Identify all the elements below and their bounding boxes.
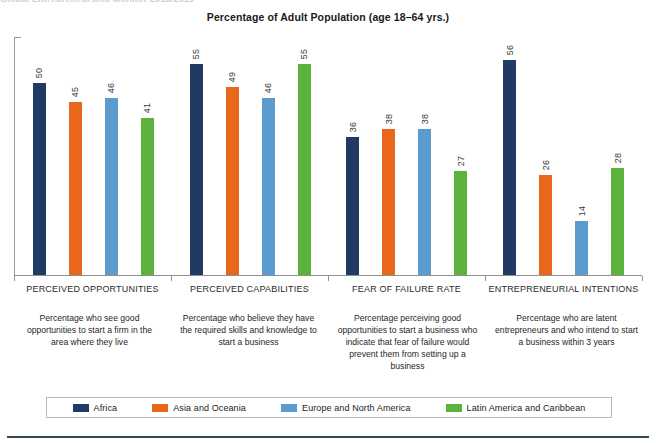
bar[interactable]: [105, 98, 118, 275]
bottom-divider: [7, 436, 649, 438]
bar-group: 50454641: [15, 37, 172, 275]
category-description: Percentage who believe they have the req…: [169, 312, 328, 372]
category-label: ENTREPRENEURIAL INTENTIONS: [485, 284, 642, 295]
bar-slot: 50: [21, 37, 57, 275]
bar-slot: 14: [564, 37, 600, 275]
bar-slot: 46: [93, 37, 129, 275]
legend-color-swatch: [281, 404, 297, 412]
bar-slot: 28: [600, 37, 636, 275]
category-labels: PERCEIVED OPPORTUNITIESPERCEIVED CAPABIL…: [14, 284, 642, 295]
category-label: FEAR OF FAILURE RATE: [328, 284, 485, 295]
x-axis-tick: [328, 276, 329, 281]
bar-value-label: 49: [227, 72, 237, 83]
plot-area: 50454641554946553638382756261428: [14, 37, 642, 275]
bar-value-label: 46: [263, 83, 273, 94]
legend-color-swatch: [152, 404, 168, 412]
bar[interactable]: [382, 129, 395, 275]
x-axis-tick: [642, 276, 643, 281]
legend-label: Latin America and Caribbean: [467, 403, 586, 413]
bar-value-label: 38: [384, 114, 394, 125]
bar-slot: 55: [286, 37, 322, 275]
category-description: Percentage who see good opportunities to…: [10, 312, 169, 372]
chart-legend: AfricaAsia and OceaniaEurope and North A…: [46, 397, 612, 418]
bar-value-label: 50: [34, 68, 44, 79]
bar[interactable]: [575, 221, 588, 275]
bar-group: 55494655: [172, 37, 329, 275]
chart-page: Global Entrepreneurship Monitor 2018/201…: [0, 0, 656, 443]
category-description: Percentage who are latent entrepreneurs …: [487, 312, 646, 372]
bar-slot: 36: [335, 37, 371, 275]
legend-label: Africa: [94, 403, 118, 413]
bar-value-label: 41: [142, 103, 152, 114]
bar-value-label: 55: [191, 49, 201, 60]
bar-value-label: 14: [577, 206, 587, 217]
bar-value-label: 38: [420, 114, 430, 125]
bar-value-label: 27: [456, 156, 466, 167]
bar[interactable]: [33, 83, 46, 275]
bar[interactable]: [69, 102, 82, 275]
bar-slot: 41: [129, 37, 165, 275]
category-label: PERCEIVED CAPABILITIES: [171, 284, 328, 295]
bar[interactable]: [611, 168, 624, 275]
bar-slot: 49: [214, 37, 250, 275]
legend-color-swatch: [446, 404, 462, 412]
category-description: Percentage perceiving good opportunities…: [328, 312, 487, 372]
bar[interactable]: [503, 60, 516, 275]
bar-value-label: 36: [348, 122, 358, 133]
legend-item[interactable]: Asia and Oceania: [152, 403, 246, 413]
bar-slot: 56: [492, 37, 528, 275]
bar-slot: 55: [178, 37, 214, 275]
bar[interactable]: [262, 98, 275, 275]
bar-group: 36383827: [329, 37, 486, 275]
bar-value-label: 55: [299, 49, 309, 60]
bar-slot: 46: [250, 37, 286, 275]
x-axis-tick: [171, 276, 172, 281]
cut-off-header-text: Global Entrepreneurship Monitor 2018/201…: [0, 0, 656, 2]
bar-groups: 50454641554946553638382756261428: [15, 37, 642, 275]
bar-slot: 27: [443, 37, 479, 275]
legend-item[interactable]: Latin America and Caribbean: [446, 403, 586, 413]
bar-value-label: 45: [70, 87, 80, 98]
bar[interactable]: [141, 118, 154, 275]
bar-value-label: 28: [613, 153, 623, 164]
bar[interactable]: [454, 171, 467, 275]
legend-label: Asia and Oceania: [173, 403, 246, 413]
x-axis-ticks: [14, 276, 642, 282]
bar[interactable]: [226, 87, 239, 275]
bar[interactable]: [298, 64, 311, 275]
bar[interactable]: [346, 137, 359, 275]
category-descriptions: Percentage who see good opportunities to…: [10, 312, 646, 372]
legend-item[interactable]: Africa: [73, 403, 118, 413]
bar-value-label: 56: [505, 45, 515, 56]
bar[interactable]: [539, 175, 552, 275]
bar[interactable]: [418, 129, 431, 275]
legend-label: Europe and North America: [302, 403, 410, 413]
x-axis-tick: [14, 276, 15, 281]
legend-item[interactable]: Europe and North America: [281, 403, 410, 413]
legend-color-swatch: [73, 404, 89, 412]
bar-value-label: 26: [541, 160, 551, 171]
category-label: PERCEIVED OPPORTUNITIES: [14, 284, 171, 295]
chart-title: Percentage of Adult Population (age 18–6…: [0, 11, 656, 23]
bar-slot: 26: [528, 37, 564, 275]
bar-value-label: 46: [106, 83, 116, 94]
bar[interactable]: [190, 64, 203, 275]
bar-slot: 38: [371, 37, 407, 275]
bar-group: 56261428: [485, 37, 642, 275]
x-axis-tick: [485, 276, 486, 281]
bar-slot: 38: [407, 37, 443, 275]
bar-slot: 45: [57, 37, 93, 275]
